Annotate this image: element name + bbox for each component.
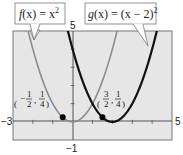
point-marker-g: [99, 114, 105, 120]
svg-text:): ): [122, 99, 125, 109]
x-min-label: −3: [1, 116, 13, 127]
svg-text:1: 1: [116, 89, 121, 99]
svg-text:(: (: [14, 99, 17, 109]
x-max-label: 5: [175, 116, 181, 127]
svg-text:g(x) = (x − 2)2: g(x) = (x − 2)2: [88, 6, 158, 21]
svg-text:−: −: [20, 93, 25, 103]
svg-text:,: ,: [111, 95, 113, 105]
svg-text:2: 2: [104, 99, 109, 109]
svg-text:1: 1: [27, 89, 32, 99]
svg-text:(: (: [97, 99, 100, 109]
point-marker-f: [60, 114, 66, 120]
svg-text:4: 4: [116, 99, 121, 109]
y-max-label: 5: [70, 20, 76, 31]
svg-text:): ): [46, 99, 49, 109]
svg-text:2: 2: [27, 99, 32, 109]
svg-text:,: ,: [34, 95, 36, 105]
svg-text:1: 1: [40, 89, 45, 99]
svg-text:3: 3: [104, 89, 109, 99]
svg-text:f(x) = x2: f(x) = x2: [19, 6, 59, 21]
y-min-label: −1: [66, 143, 78, 154]
svg-text:4: 4: [40, 99, 45, 109]
parabola-graph: ( − 1 2 , 1 4 ) ( 3 2 , 1 4 ) −3 5 5 −1 …: [0, 0, 183, 155]
